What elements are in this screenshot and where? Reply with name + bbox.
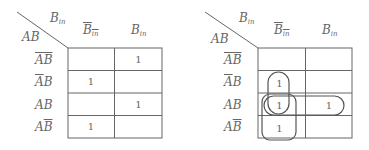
- corner-col-var: Bin: [239, 12, 255, 26]
- row-label-a-bbar: AB: [224, 121, 242, 133]
- row-label-abar-bbar: AB: [224, 54, 241, 66]
- row-label-a-b: AB: [224, 99, 241, 111]
- col-header-bin: Bin: [322, 24, 338, 38]
- cell-r1-c0: 1: [256, 79, 303, 89]
- row-label-abar-b: AB: [224, 76, 242, 88]
- kmap-grouped: Bin AB Bin Bin AB AB AB AB 1 1 1 1: [0, 0, 369, 150]
- kmap-grid: [0, 0, 369, 150]
- cell-r2-c1: 1: [306, 101, 352, 111]
- col-header-bin-complement: Bin: [274, 24, 290, 38]
- cell-r2-c0: 1: [256, 101, 303, 111]
- cell-r3-c0: 1: [256, 124, 303, 134]
- corner-row-var: AB: [211, 33, 228, 45]
